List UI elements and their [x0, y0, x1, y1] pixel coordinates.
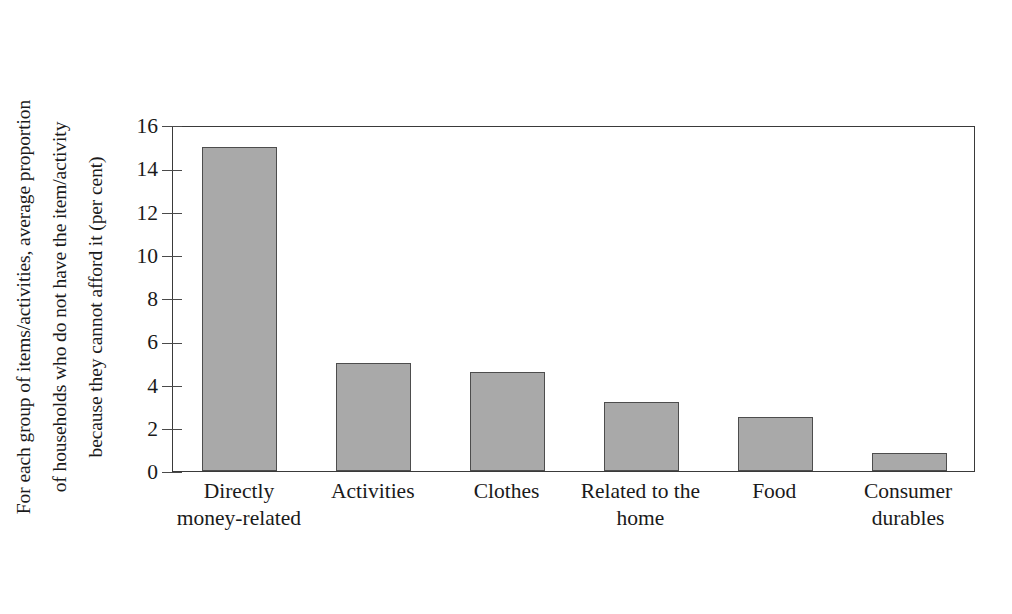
y-axis-title-line-2: of households who do not have the item/a…: [42, 27, 78, 587]
x-axis-category-label: Consumerdurables: [829, 478, 987, 532]
y-axis-tick: [162, 170, 173, 171]
y-axis-tick-inner: [173, 299, 182, 300]
bar: [872, 453, 947, 471]
y-axis-tick-label: 10: [114, 245, 158, 267]
y-axis-tick-inner: [173, 343, 182, 344]
y-axis-tick: [162, 386, 173, 387]
plot-area: [172, 126, 975, 472]
bar: [470, 372, 545, 471]
y-axis-title: For each group of items/activities, aver…: [0, 0, 120, 614]
y-axis-tick: [162, 429, 173, 430]
bar: [738, 417, 813, 471]
y-axis-tick-inner: [173, 126, 182, 127]
y-axis-tick: [162, 472, 173, 473]
y-axis-tick-inner: [173, 213, 182, 214]
x-axis-category-label-line: money-related: [160, 505, 318, 532]
y-axis-tick-label: 16: [114, 115, 158, 137]
x-axis-category-labels: Directlymoney-relatedActivitiesClothesRe…: [172, 478, 975, 558]
y-axis-tick-label: 0: [114, 461, 158, 483]
y-axis-tick-label: 8: [114, 288, 158, 310]
bar: [604, 402, 679, 471]
y-axis-tick-inner: [173, 429, 182, 430]
x-axis-category-label-line: durables: [829, 505, 987, 532]
y-axis-tick: [162, 126, 173, 127]
y-axis-tick: [162, 256, 173, 257]
y-axis-tick-inner: [173, 170, 182, 171]
y-axis-title-line-3: because they cannot afford it (per cent): [78, 27, 114, 587]
y-axis-tick: [162, 343, 173, 344]
y-axis-tick: [162, 299, 173, 300]
y-axis-tick-label: 4: [114, 375, 158, 397]
y-axis-title-line-1: For each group of items/activities, aver…: [6, 27, 42, 587]
x-axis-category-label-line: Consumer: [829, 478, 987, 505]
y-axis-tick-inner: [173, 256, 182, 257]
y-axis-tick-label: 14: [114, 158, 158, 180]
y-axis-tick-inner: [173, 386, 182, 387]
x-axis-category-label-line: home: [562, 505, 720, 532]
y-axis-tick-label: 2: [114, 418, 158, 440]
y-axis-tick-inner: [173, 472, 182, 473]
bar-chart-figure: For each group of items/activities, aver…: [0, 0, 1012, 614]
y-axis-tick-label: 12: [114, 202, 158, 224]
bar: [336, 363, 411, 471]
y-axis-title-text: For each group of items/activities, aver…: [6, 27, 114, 587]
y-axis-tick-label: 6: [114, 331, 158, 353]
bar: [202, 147, 277, 471]
y-axis-tick: [162, 213, 173, 214]
